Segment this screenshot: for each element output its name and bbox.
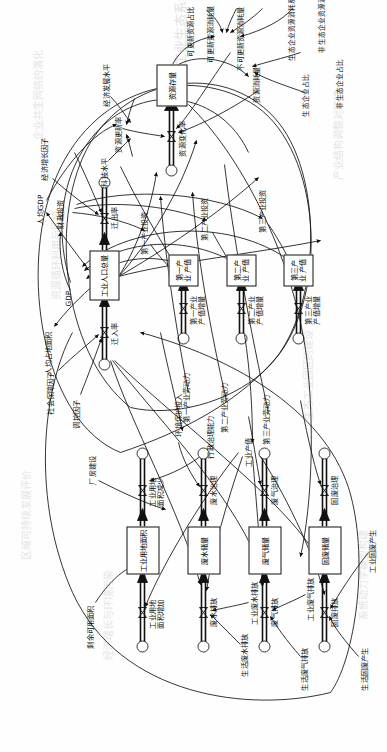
stock-solidwaste[interactable]: 固废储量 — [308, 526, 341, 574]
stock-primary-output[interactable]: 第一产业 产值 — [168, 254, 198, 286]
aux-label-resource-consume: 资源消耗量 — [252, 67, 260, 103]
stock-label: 第一产业 产值 — [175, 257, 191, 283]
aux-label-renewable-ratio: 可更新资源占比 — [186, 6, 194, 56]
aux-label-nonrenewable-consume: 不可更新资源消耗量 — [236, 6, 244, 70]
flow-label-wastegas-treat: 废气治理 — [270, 476, 278, 504]
stock-resource[interactable]: 资源存量 — [156, 64, 187, 106]
aux-label-land-per-capita: 人均占地面积 — [44, 331, 52, 374]
aux-label-tertiary-invest: 第三产业投资 — [258, 189, 266, 232]
flow-label-wastegas-discharge: 废气排放 — [270, 598, 278, 626]
aux-label-tech-level: 科技水平 — [100, 158, 108, 186]
diagram-page: 工业生态系统动态仿真研究 企业共生网络的演化 资源循环利用与区域 生态工业园区的… — [0, 0, 387, 752]
stock-population[interactable]: 工业人口总量 — [89, 250, 119, 300]
aux-label-fiscal-investment: 财政投资 — [56, 200, 64, 228]
aux-label-primary-invest: 第一产业投资 — [140, 211, 148, 254]
flow-label-wastewater-treat: 废水治理 — [209, 476, 217, 504]
aux-label-secondary-invest: 第二产业投资 — [200, 197, 208, 240]
aux-label-eco-coefficient: 生态企业资源消耗系数 — [288, 0, 295, 60]
aux-label-noneco-coefficient: 非生态企业资源消耗系数 — [318, 0, 325, 52]
aux-label-renewable-consume: 可更新资源消耗量 — [206, 5, 214, 62]
aux-label-industrial-sw: 工业固废产生 — [368, 529, 376, 572]
flow-label-wastewater-discharge: 废水排放 — [209, 598, 217, 626]
stock-wastegas[interactable]: 废气储量 — [248, 526, 281, 574]
flow-label-land-decrease: 工业用地 面积减少 — [148, 478, 164, 506]
flow-label-land-increase: 工业用地 面积增加 — [148, 600, 164, 628]
aux-label-econ-growth-factor: 经济增长因子 — [40, 137, 48, 180]
stock-label: 废气储量 — [261, 536, 269, 564]
stock-secondary-output[interactable]: 第二产业 产值 — [226, 254, 256, 286]
aux-label-industrial-output: 工业产值 — [244, 438, 252, 466]
aux-label-social-security: 社会保障因子 — [46, 371, 54, 414]
stock-label: 固废储量 — [321, 536, 329, 564]
aux-label-eco-ratio: 生态企业占比 — [302, 73, 309, 116]
aux-label-gdp-per-capita: 人均GDP — [36, 194, 44, 224]
aux-label-tertiary-labor: 第三产业劳动力 — [262, 394, 270, 444]
diagram-canvas: 工业用地面积 废水储量 废气储量 固废储量 工业人口总量 第一产业 产值 第二产… — [0, 0, 387, 752]
flow-label-emigration: 迁出率 — [110, 207, 118, 228]
stock-industrial-land[interactable]: 工业用地面积 — [126, 526, 159, 574]
aux-label-industrial-ww: 工业废水排放 — [250, 581, 258, 624]
stock-wastewater[interactable]: 废水储量 — [187, 526, 220, 574]
aux-label-domestic-wg: 生活废气排放 — [300, 647, 308, 690]
flow-label-immigration: 迁入率 — [110, 323, 118, 344]
stock-label: 第二产业 产值 — [233, 257, 249, 283]
aux-label-econ-level: 经济发展水平 — [102, 63, 110, 106]
stock-label: 工业用地面积 — [139, 529, 147, 571]
aux-label-industrial-wg: 工业废气排放 — [306, 577, 314, 620]
aux-label-factory-build: 厂房建设 — [88, 456, 96, 484]
aux-label-noneco-ratio: 非生态企业占比 — [336, 58, 343, 108]
aux-label-primary-labor: 第一产业劳动力 — [182, 372, 190, 422]
aux-label-resource-renew-rate: 资源更新率 — [114, 117, 122, 153]
stock-label: 废水储量 — [200, 536, 208, 564]
aux-label-pollution-capacity: 行政治理能力 — [206, 415, 214, 458]
aux-label-control-factor: 调控因子 — [72, 400, 80, 428]
flow-label-primary-increment: 第一产业 产值增量 — [189, 296, 205, 324]
stock-tertiary-output[interactable]: 第三产业 产值 — [283, 254, 313, 286]
stock-label: 第三产业 产值 — [290, 257, 306, 283]
diagram-vector-layer — [0, 0, 387, 752]
flow-label-solid-treat: 固废治理 — [330, 476, 338, 504]
flow-label-solid-discharge: 固废排放 — [330, 598, 338, 626]
aux-label-domestic-sw: 生活固废产生 — [360, 647, 368, 690]
stock-label: 资源存量 — [168, 71, 176, 99]
flow-label-secondary-increment: 第二产业 产值增量 — [247, 296, 263, 324]
aux-label-gdp: GDP — [64, 290, 72, 306]
flow-label-resource-change: 资源变化率 — [178, 121, 186, 157]
aux-label-secondary-labor: 第二产业劳动力 — [220, 382, 228, 432]
stock-label: 工业人口总量 — [100, 254, 108, 296]
aux-label-surplus-land: 剩余可用面积 — [86, 605, 94, 648]
aux-label-env-investment: 环境保护投入 — [174, 393, 182, 436]
aux-label-domestic-ww: 生活废水排放 — [240, 633, 248, 676]
flow-label-tertiary-increment: 第三产业 产值增量 — [304, 296, 320, 324]
